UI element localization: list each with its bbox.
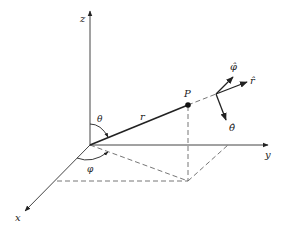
projection-to-y [188, 145, 228, 181]
point-p [185, 102, 191, 108]
z-axis-label: z [79, 13, 86, 24]
theta-arc [90, 124, 108, 137]
y-axis-label: y [264, 149, 271, 160]
theta-hat-vector [216, 94, 226, 120]
radius-label: r [140, 111, 146, 122]
r-hat-label: r̂ [250, 75, 256, 86]
spherical-coordinates-diagram: z y x P r θ φ r̂ φ̂ θ̂ [0, 0, 282, 229]
phi-hat-label: φ̂ [230, 61, 237, 72]
x-axis [25, 145, 90, 211]
radius-line [90, 105, 188, 145]
phi-hat-vector [216, 77, 233, 94]
point-p-label: P [183, 88, 191, 99]
theta-label: θ [97, 114, 103, 124]
r-hat-vector [216, 82, 247, 94]
projection-radial [90, 145, 188, 181]
x-axis-label: x [15, 212, 21, 223]
theta-hat-label: θ̂ [229, 122, 235, 133]
phi-label: φ [87, 164, 94, 174]
r-extension [188, 94, 216, 105]
